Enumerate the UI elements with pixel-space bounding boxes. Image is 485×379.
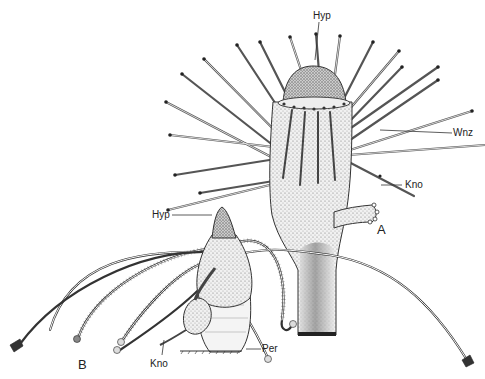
panel-b-body: [197, 235, 252, 307]
label-a-wnz: Wnz: [453, 127, 473, 138]
panel-a-letter: A: [377, 222, 386, 237]
hydroid-illustration: Hyp Wnz Kno A: [0, 0, 485, 379]
panel-b-tentacles: [50, 241, 467, 360]
panel-b-hypostome: [212, 207, 236, 238]
label-a-hyp: Hyp: [313, 10, 331, 21]
label-b-per: Per: [262, 343, 278, 354]
label-b-hyp: Hyp: [152, 209, 170, 220]
panel-b-polyp: [10, 207, 474, 367]
panel-b-letter: B: [78, 357, 87, 372]
label-a-kno: Kno: [405, 179, 423, 190]
label-b-kno: Kno: [150, 358, 168, 369]
